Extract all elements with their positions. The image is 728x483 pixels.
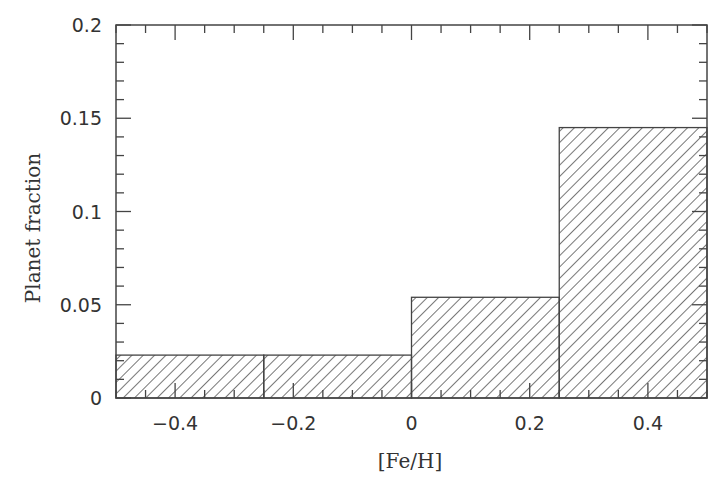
- y-tick-label: 0.05: [60, 294, 102, 316]
- histogram-bars: [116, 128, 707, 398]
- x-tick-label: 0: [405, 412, 417, 434]
- histogram-chart: −0.4−0.200.20.4 00.050.10.150.2 [Fe/H] P…: [0, 0, 728, 483]
- y-tick-label: 0.1: [72, 201, 102, 223]
- histogram-bar: [264, 355, 412, 398]
- x-axis-title: [Fe/H]: [378, 449, 442, 473]
- y-tick-labels: 00.050.10.150.2: [60, 14, 102, 409]
- y-tick-label: 0.2: [72, 14, 102, 36]
- x-tick-labels: −0.4−0.200.20.4: [152, 412, 663, 434]
- y-tick-label: 0: [90, 387, 102, 409]
- x-tick-label: −0.4: [152, 412, 198, 434]
- histogram-bar: [412, 297, 560, 398]
- x-tick-label: 0.2: [515, 412, 545, 434]
- x-tick-label: 0.4: [633, 412, 663, 434]
- histogram-bar: [116, 355, 264, 398]
- x-tick-label: −0.2: [270, 412, 316, 434]
- y-tick-label: 0.15: [60, 107, 102, 129]
- y-axis-title: Planet fraction: [21, 153, 45, 303]
- histogram-bar: [559, 128, 707, 398]
